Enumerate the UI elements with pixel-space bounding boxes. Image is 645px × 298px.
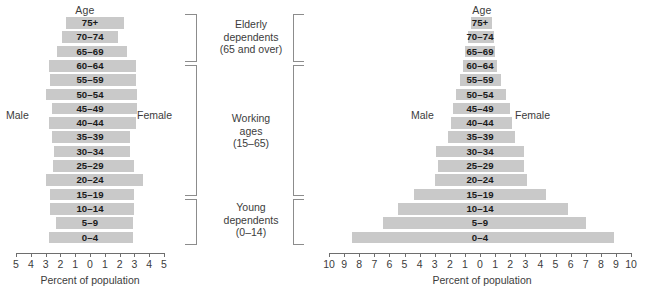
left-pyramid-panel: Age 75+70–7465–6960–6455–5950–5445–4940–… <box>0 0 185 298</box>
pyramid-row: 15–19 <box>319 188 645 202</box>
axis-tick <box>31 253 32 257</box>
group-elderly-line1: Elderly <box>235 18 267 30</box>
axis-tick <box>105 253 106 257</box>
bracket-young-right <box>293 199 305 245</box>
axis-tick <box>329 253 330 257</box>
pyramid-row: 35–39 <box>319 130 645 144</box>
age-cohort-label: 35–39 <box>438 130 522 144</box>
age-cohort-label: 15–19 <box>438 188 522 202</box>
right-bar-rows: 75+70–7465–6960–6455–5950–5445–4940–4435… <box>319 16 645 245</box>
axis-tick <box>389 253 390 257</box>
left-bracket-group: Elderly dependents (65 and over) Working… <box>185 0 310 298</box>
pyramid-row: 25–29 <box>319 159 645 173</box>
axis-tick <box>359 253 360 257</box>
age-cohort-label: 55–59 <box>438 73 522 87</box>
right-female-label: Female <box>515 109 550 121</box>
axis-tick <box>601 253 602 257</box>
pyramid-row: 10–14 <box>0 202 185 216</box>
right-pyramid-panel: Age 75+70–7465–6960–6455–5950–5445–4940–… <box>319 0 645 298</box>
axis-tick <box>16 253 17 257</box>
age-cohort-label: 65–69 <box>438 45 522 59</box>
age-cohort-label: 50–54 <box>438 88 522 102</box>
pyramid-row: 30–34 <box>0 145 185 159</box>
axis-tick <box>450 253 451 257</box>
pyramid-row: 0–4 <box>0 231 185 245</box>
group-working-line3: (15–65) <box>233 137 269 149</box>
pyramid-row: 65–69 <box>0 45 185 59</box>
age-cohort-label: 65–69 <box>48 45 132 59</box>
right-age-header: Age <box>452 4 512 16</box>
axis-tick <box>164 253 165 257</box>
age-cohort-label: 20–24 <box>48 173 132 187</box>
axis-tick <box>420 253 421 257</box>
pyramid-row: 20–24 <box>0 173 185 187</box>
pyramid-row: 5–9 <box>0 216 185 230</box>
age-cohort-label: 75+ <box>48 16 132 30</box>
group-elderly-line3: (65 and over) <box>220 43 282 55</box>
age-cohort-label: 15–19 <box>48 188 132 202</box>
age-cohort-label: 40–44 <box>48 116 132 130</box>
pyramid-row: 30–34 <box>319 145 645 159</box>
axis-tick <box>510 253 511 257</box>
pyramid-row: 5–9 <box>319 216 645 230</box>
axis-tick-label: 5 <box>154 258 174 270</box>
axis-tick <box>480 253 481 257</box>
age-cohort-label: 10–14 <box>438 202 522 216</box>
bracket-young-left <box>185 199 197 245</box>
pyramid-row: 60–64 <box>319 59 645 73</box>
group-label-young-left: Young dependents (0–14) <box>199 201 303 239</box>
pyramid-row: 10–14 <box>319 202 645 216</box>
left-axis-caption: Percent of population <box>5 274 175 286</box>
axis-tick <box>120 253 121 257</box>
age-cohort-label: 60–64 <box>48 59 132 73</box>
axis-tick <box>525 253 526 257</box>
age-cohort-label: 30–34 <box>48 145 132 159</box>
age-cohort-label: 50–54 <box>48 88 132 102</box>
pyramid-row: 50–54 <box>0 88 185 102</box>
axis-tick <box>631 253 632 257</box>
axis-tick <box>465 253 466 257</box>
pyramid-row: 70–74 <box>0 30 185 44</box>
bracket-elderly-left <box>185 14 197 62</box>
pyramid-row: 65–69 <box>319 45 645 59</box>
axis-tick <box>435 253 436 257</box>
axis-tick <box>344 253 345 257</box>
age-cohort-label: 30–34 <box>438 145 522 159</box>
axis-tick <box>75 253 76 257</box>
pyramid-row: 70–74 <box>319 30 645 44</box>
left-female-label: Female <box>137 109 172 121</box>
age-cohort-label: 20–24 <box>438 173 522 187</box>
group-working-line2: ages <box>240 125 263 137</box>
age-cohort-label: 75+ <box>438 16 522 30</box>
right-axis-caption: Percent of population <box>319 274 645 286</box>
age-cohort-label: 35–39 <box>48 130 132 144</box>
right-bracket-group <box>293 0 319 298</box>
axis-tick <box>90 253 91 257</box>
group-young-line1: Young <box>236 201 265 213</box>
axis-tick <box>556 253 557 257</box>
bracket-working-left <box>185 65 197 196</box>
pyramid-row: 75+ <box>319 16 645 30</box>
age-cohort-label: 70–74 <box>438 30 522 44</box>
axis-tick <box>46 253 47 257</box>
pyramid-row: 75+ <box>0 16 185 30</box>
axis-tick <box>540 253 541 257</box>
age-cohort-label: 25–29 <box>438 159 522 173</box>
age-cohort-label: 25–29 <box>48 159 132 173</box>
age-cohort-label: 55–59 <box>48 73 132 87</box>
age-cohort-label: 10–14 <box>48 202 132 216</box>
age-cohort-label: 60–64 <box>438 59 522 73</box>
age-cohort-label: 70–74 <box>48 30 132 44</box>
pyramid-row: 50–54 <box>319 88 645 102</box>
pyramid-row: 40–44 <box>319 116 645 130</box>
age-cohort-label: 0–4 <box>48 231 132 245</box>
pyramid-row: 55–59 <box>319 73 645 87</box>
group-young-line2: dependents <box>224 214 279 226</box>
group-label-elderly-left: Elderly dependents (65 and over) <box>199 18 303 56</box>
age-cohort-label: 5–9 <box>48 216 132 230</box>
age-cohort-label: 5–9 <box>438 216 522 230</box>
pyramid-row: 55–59 <box>0 73 185 87</box>
axis-tick <box>134 253 135 257</box>
bracket-elderly-right <box>293 14 305 62</box>
right-male-label: Male <box>411 109 434 121</box>
